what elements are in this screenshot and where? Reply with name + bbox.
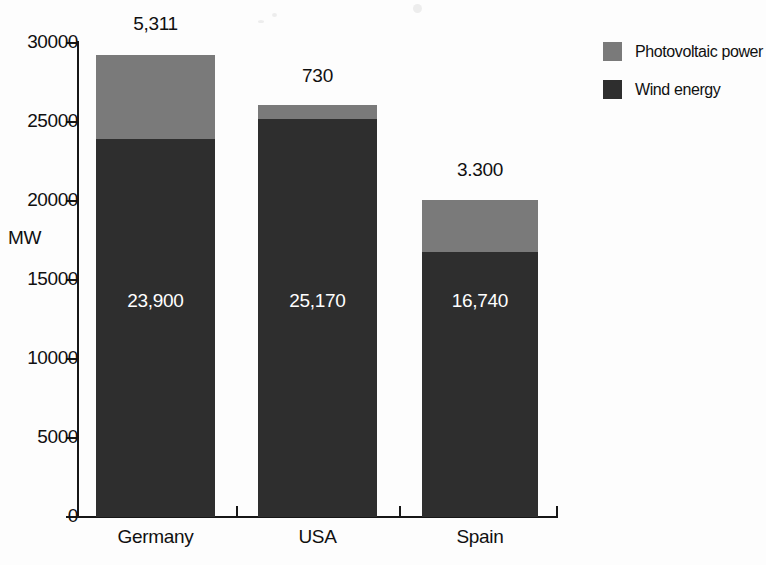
y-tick-label: 10000 — [20, 348, 78, 367]
x-category-label-spain: Spain — [392, 527, 568, 547]
bar-segment-photovoltaic[interactable] — [422, 200, 538, 252]
bar-value-label-wind: 23,900 — [96, 291, 215, 310]
legend-item-wind-energy[interactable]: Wind energy — [603, 80, 766, 99]
y-tick-15000: 15000 — [0, 279, 78, 281]
bar-group-usa[interactable]: 730 25,170 USA — [258, 0, 377, 565]
x-category-label-germany: Germany — [66, 527, 245, 547]
bar-group-spain[interactable]: 3.300 16,740 Spain — [422, 0, 538, 565]
bar-total-label-pv: 5,311 — [66, 14, 245, 33]
legend-label: Photovoltaic power — [635, 44, 763, 60]
chart-figure: 0 5000 10000 15000 20000 25000 3 — [0, 0, 766, 565]
x-category-label-usa: USA — [228, 527, 407, 547]
y-tick-label: 30000 — [20, 32, 78, 51]
bar-segment-photovoltaic[interactable] — [258, 105, 377, 119]
x-tick-mark — [556, 506, 558, 517]
legend-item-photovoltaic-power[interactable]: Photovoltaic power — [603, 42, 766, 61]
bar-segment-photovoltaic[interactable] — [96, 55, 215, 139]
bar-value-label-wind: 16,740 — [422, 291, 538, 310]
x-tick-mark — [236, 506, 238, 517]
bar-segment-wind[interactable]: 25,170 — [258, 119, 377, 517]
legend-swatch-icon — [603, 80, 622, 99]
y-tick-25000: 25000 — [0, 121, 78, 123]
y-tick-10000: 10000 — [0, 358, 78, 360]
chart-legend: Photovoltaic power Wind energy — [603, 42, 766, 118]
bar-total-label-pv: 730 — [228, 66, 407, 85]
bar-total-label-pv: 3.300 — [392, 160, 568, 179]
x-tick-mark — [399, 506, 401, 517]
y-tick-20000: 20000 — [0, 200, 78, 202]
y-tick-label: 15000 — [20, 269, 78, 288]
y-tick-0: 0 — [0, 516, 78, 518]
y-tick-label: 20000 — [20, 190, 78, 209]
y-axis-title: MW — [8, 228, 41, 247]
bar-group-germany[interactable]: 5,311 23,900 Germany — [96, 0, 215, 565]
y-tick-30000: 30000 — [0, 42, 78, 44]
legend-label: Wind energy — [635, 82, 720, 98]
legend-swatch-icon — [603, 42, 622, 61]
y-tick-label: 5000 — [20, 427, 78, 446]
y-tick-5000: 5000 — [0, 437, 78, 439]
y-tick-label: 0 — [20, 506, 78, 525]
bar-segment-wind[interactable]: 23,900 — [96, 139, 215, 517]
bar-segment-wind[interactable]: 16,740 — [422, 252, 538, 517]
y-tick-label: 25000 — [20, 111, 78, 130]
bar-value-label-wind: 25,170 — [258, 291, 377, 310]
